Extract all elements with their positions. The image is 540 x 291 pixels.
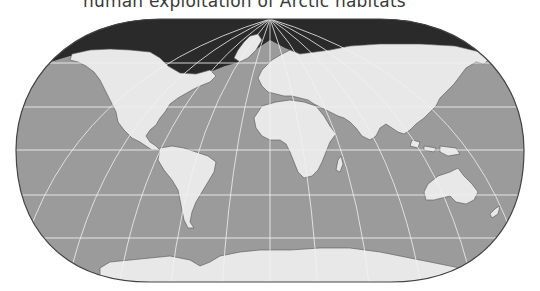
world-map [0, 0, 540, 291]
